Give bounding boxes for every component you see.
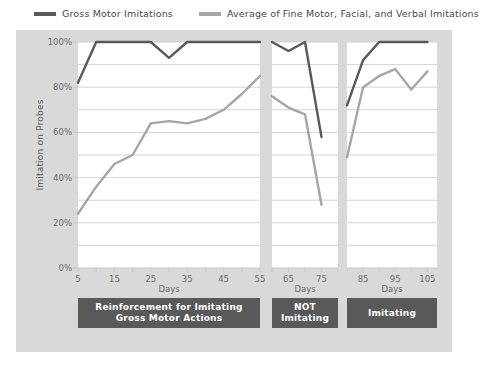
y-tick-label: 0% — [59, 263, 73, 273]
line-swatch-icon — [34, 12, 56, 16]
x-tick-label: 25 — [145, 274, 156, 284]
x-axis-label: Days — [381, 284, 403, 294]
phase-label-text: Imitating — [368, 308, 416, 319]
y-tick-label: 60% — [53, 127, 72, 137]
x-axis-label: Days — [294, 284, 316, 294]
x-axis-label: Days — [158, 284, 180, 294]
phase-label-text: NOTImitating — [281, 302, 329, 324]
chart-legend: Gross Motor Imitations Average of Fine M… — [0, 0, 468, 30]
line-swatch-icon — [199, 12, 221, 16]
x-tick-label: 85 — [358, 274, 369, 284]
phase-label-reinforcement: Reinforcement for ImitatingGross Motor A… — [78, 298, 260, 328]
x-tick-label: 15 — [109, 274, 120, 284]
x-tick-label: 95 — [390, 274, 401, 284]
chart-panel: 8595105Days — [347, 42, 437, 294]
x-tick-label: 105 — [419, 274, 435, 284]
y-tick-label: 40% — [53, 173, 72, 183]
phase-label-imitating: Imitating — [347, 298, 437, 328]
x-tick-label: 65 — [283, 274, 294, 284]
legend-label-gross-motor: Gross Motor Imitations — [62, 8, 173, 19]
legend-item-gross-motor: Gross Motor Imitations — [34, 8, 173, 19]
phase-label-not-imitating: NOTImitating — [272, 298, 338, 328]
x-tick-label: 75 — [316, 274, 327, 284]
phase-label-text: Reinforcement for ImitatingGross Motor A… — [95, 302, 242, 324]
x-tick-label: 5 — [75, 274, 80, 284]
legend-label-average: Average of Fine Motor, Facial, and Verba… — [227, 8, 479, 19]
x-tick-label: 35 — [182, 274, 193, 284]
x-tick-label: 45 — [218, 274, 229, 284]
x-tick-label: 55 — [255, 274, 266, 284]
legend-item-average: Average of Fine Motor, Facial, and Verba… — [199, 8, 479, 19]
chart-panel: 51525354555Days — [75, 42, 265, 294]
chart-outer-panel: Imitation on Probes 0%20%40%60%80%100%51… — [16, 30, 452, 352]
y-tick-label: 100% — [48, 37, 72, 47]
y-tick-label: 80% — [53, 82, 72, 92]
chart-panel: 6575Days — [272, 42, 338, 294]
y-tick-label: 20% — [53, 218, 72, 228]
